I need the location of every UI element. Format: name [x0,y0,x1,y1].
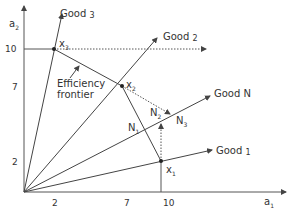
frontier-label-arrow [70,66,79,78]
label-good1: Good 1 [216,145,251,157]
efficiency-frontier-diagram: a2 a1 2 7 10 10 7 2 Good 3 Good 2 Good N… [0,0,291,217]
ray-good3 [24,14,62,192]
y-tick-7: 7 [12,82,18,92]
efficiency-frontier [54,49,161,161]
label-x1: x1 [166,164,176,177]
ray-goodN [24,96,210,192]
label-goodN: Good N [214,88,251,99]
label-good3: Good 3 [60,8,95,20]
label-n2: N2 [150,107,161,120]
label-n3: N3 [176,115,187,128]
y-tick-10: 10 [5,44,17,54]
point-x1 [159,159,163,163]
x-tick-7: 7 [124,198,130,208]
label-x2: x2 [126,79,136,92]
x-tick-10: 10 [163,198,175,208]
ray-good1 [24,150,212,192]
x-axis-label: a1 [264,196,274,209]
label-good2: Good 2 [163,31,198,43]
x-tick-2: 2 [52,198,58,208]
point-x3 [52,47,56,51]
point-x2 [120,84,124,88]
label-n1: N1 [128,122,139,135]
y-tick-2: 2 [12,157,18,167]
y-axis-label: a2 [9,18,19,31]
frontier-label-line2: frontier [57,89,95,100]
frontier-label-line1: Efficiency [57,78,105,89]
